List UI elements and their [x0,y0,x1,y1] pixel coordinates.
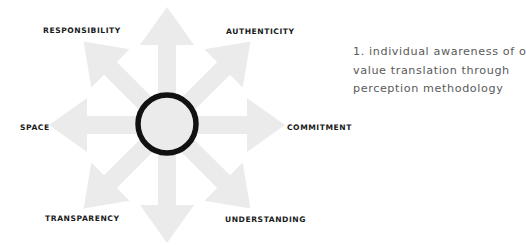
label-space: SPACE [20,123,50,132]
description-line: 1. individual awareness of own [353,43,525,62]
arrows-graphic [0,0,526,245]
label-responsibility: RESPONSIBILITY [43,26,121,35]
description-line: perception methodology [353,80,525,99]
radial-arrow-diagram: RESPONSIBILITY AUTHENTICITY SPACE COMMIT… [0,0,526,245]
label-understanding: UNDERSTANDING [225,215,306,224]
label-transparency: TRANSPARENCY [45,214,120,223]
label-authenticity: AUTHENTICITY [226,27,295,36]
center-ring-icon [138,95,196,153]
description-text: 1. individual awareness of own value tra… [353,43,525,99]
label-commitment: COMMITMENT [287,123,352,132]
description-line: value translation through [353,62,525,81]
